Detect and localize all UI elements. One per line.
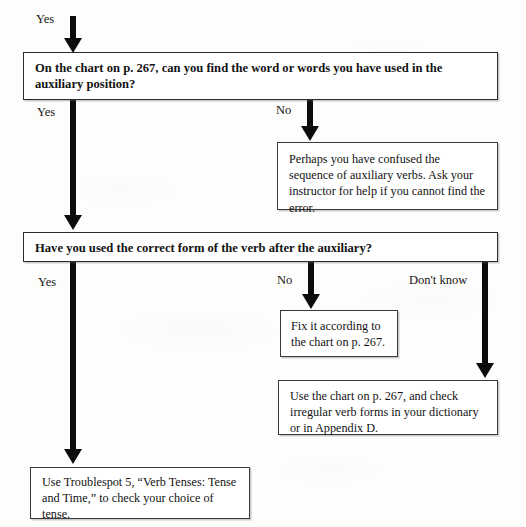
edge-label-q2-dont-know: Don't know xyxy=(409,274,467,287)
node-question-auxiliary-position: On the chart on p. 267, can you find the… xyxy=(23,52,498,100)
node-question-auxiliary-position-text: On the chart on p. 267, can you find the… xyxy=(35,60,486,93)
node-action-use-chart-dictionary-text: Use the chart on p. 267, and check irreg… xyxy=(290,388,487,437)
connector-q2-dont-know-shaft xyxy=(482,262,488,366)
node-question-verb-form-text: Have you used the correct form of the ve… xyxy=(35,240,486,256)
edge-label-q2-no: No xyxy=(277,274,292,287)
connector-q1-yes-shaft xyxy=(70,100,76,218)
connector-q2-yes-arrowhead xyxy=(64,449,82,464)
connector-q1-no-arrowhead xyxy=(301,126,319,141)
edge-label-q2-yes: Yes xyxy=(38,276,56,289)
node-action-use-chart-dictionary: Use the chart on p. 267, and check irreg… xyxy=(278,380,498,435)
connector-q2-yes-shaft xyxy=(70,262,76,452)
node-action-fix-per-chart: Fix it according to the chart on p. 267. xyxy=(280,310,398,357)
node-action-fix-per-chart-text: Fix it according to the chart on p. 267. xyxy=(291,318,388,350)
node-question-verb-form: Have you used the correct form of the ve… xyxy=(23,232,498,262)
node-action-confused-sequence: Perhaps you have confused the sequence o… xyxy=(277,142,498,210)
flowchart-canvas: Yes On the chart on p. 267, can you find… xyxy=(0,0,526,527)
connector-q2-no-shaft xyxy=(308,262,314,297)
connector-q2-dont-know-arrowhead xyxy=(476,363,494,378)
edge-label-entry-yes: Yes xyxy=(36,13,54,26)
node-action-confused-sequence-text: Perhaps you have confused the sequence o… xyxy=(289,151,487,216)
connector-q1-no-shaft xyxy=(307,100,313,129)
connector-q1-yes-arrowhead xyxy=(64,215,82,230)
edge-label-q1-yes: Yes xyxy=(37,106,55,119)
node-action-troublespot-five-text: Use Troublespot 5, “Verb Tenses: Tense a… xyxy=(42,474,239,523)
connector-q2-no-arrowhead xyxy=(302,294,320,309)
node-action-troublespot-five: Use Troublespot 5, “Verb Tenses: Tense a… xyxy=(30,467,250,519)
edge-label-q1-no: No xyxy=(276,104,291,117)
connector-entry-to-q1-arrowhead xyxy=(64,38,82,53)
